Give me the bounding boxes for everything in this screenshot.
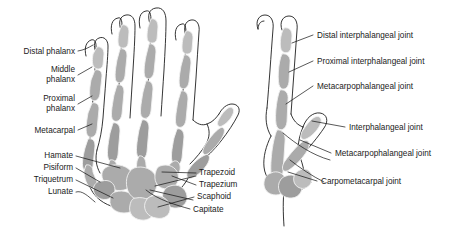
label-pisiform: Pisiform <box>43 163 73 172</box>
label-scaphoid: Scaphoid <box>197 192 232 201</box>
label-proximal-interphalangeal-joint: Proximal interphalangeal joint <box>317 57 425 66</box>
label-middle-phalanx-line1: Middle <box>51 65 76 74</box>
label-distal-phalanx: Distal phalanx <box>24 47 75 56</box>
label-trapezoid: Trapezoid <box>199 168 236 177</box>
hand-anatomy-figure: Distal phalanx Middle phalanx Proximal p… <box>0 0 460 234</box>
label-metacarpophalangeal-joint-thumb: Metacarpophalangeal joint <box>335 149 432 158</box>
label-metacarpal: Metacarpal <box>34 126 75 135</box>
label-carpometacarpal-joint: Carpometacarpal joint <box>321 177 402 186</box>
label-proximal-phalanx-line1: Proximal <box>43 94 75 103</box>
label-triquetrum: Triquetrum <box>34 175 73 184</box>
label-distal-interphalangeal-joint: Distal interphalangeal joint <box>317 31 414 40</box>
label-capitate: Capitate <box>193 205 224 214</box>
scaphoid-bone <box>145 196 171 219</box>
label-interphalangeal-joint: Interphalangeal joint <box>349 123 423 132</box>
label-hamate: Hamate <box>44 151 73 160</box>
label-metacarpophalangeal-joint-finger: Metacarpophalangeal joint <box>317 82 414 91</box>
label-lunate: Lunate <box>48 187 73 196</box>
label-trapezium: Trapezium <box>199 180 238 189</box>
label-proximal-phalanx-line2: phalanx <box>46 104 75 113</box>
label-middle-phalanx-line2: phalanx <box>46 75 75 84</box>
